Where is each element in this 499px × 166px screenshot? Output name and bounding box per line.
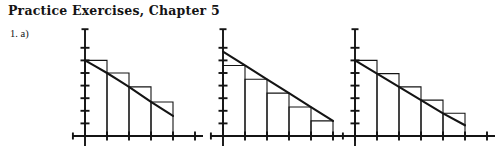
riemann-sum-figure-right bbox=[325, 24, 499, 166]
bar bbox=[151, 102, 173, 136]
figure-left-ticks bbox=[73, 29, 195, 140]
figure-right-axes bbox=[343, 29, 495, 146]
bar bbox=[377, 74, 399, 136]
figure-left-canvas bbox=[55, 24, 209, 166]
figure-right-curve bbox=[355, 60, 465, 125]
figure-right-bars bbox=[355, 60, 465, 136]
figure-row bbox=[0, 24, 472, 166]
figure-middle-bars bbox=[223, 65, 333, 136]
bar bbox=[267, 93, 289, 136]
figure-right-canvas bbox=[325, 24, 499, 166]
bar bbox=[289, 107, 311, 136]
figure-left-bars bbox=[85, 60, 173, 136]
bar bbox=[223, 65, 245, 136]
page-title: Practice Exercises, Chapter 5 bbox=[8, 3, 220, 18]
bar bbox=[421, 100, 443, 136]
bar bbox=[107, 73, 129, 136]
figure-middle-curve bbox=[223, 52, 333, 121]
figure-left-axes bbox=[73, 29, 203, 146]
riemann-sum-figure-left bbox=[55, 24, 209, 166]
bar bbox=[245, 79, 267, 136]
